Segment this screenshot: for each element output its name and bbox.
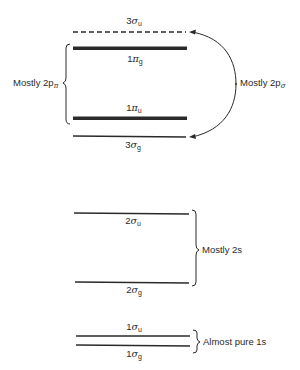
label-3sigma-g: 3σg [113, 140, 153, 150]
label-1sigma-g: 1σg [114, 349, 154, 359]
brace-mostly-2p-pi [63, 44, 70, 124]
level-sub: g [138, 289, 142, 296]
label-1sigma-u: 1σu [114, 322, 154, 332]
brace-mostly-2s [192, 210, 199, 286]
group-sub: π [54, 82, 59, 90]
level-1pi-u [73, 117, 187, 121]
brace-almost-pure-1s [193, 330, 200, 353]
level-2sigma-g [75, 282, 189, 283]
label-1pi-u: 1πu [114, 103, 154, 113]
label-2sigma-g: 2σg [114, 285, 154, 295]
label-3sigma-u: 3σu [114, 16, 154, 26]
label-1pi-g: 1πg [115, 54, 155, 64]
level-sub: g [138, 353, 142, 360]
level-sub: u [138, 326, 142, 333]
level-sub: g [139, 58, 143, 65]
level-sub: u [138, 107, 142, 114]
group-text: Mostly 2p [240, 77, 281, 88]
group-label-mostly-2p-sigma: Mostly 2pσ [240, 78, 285, 88]
level-1sigma-g [76, 345, 190, 346]
group-text: Mostly 2p [13, 77, 54, 88]
arrowhead-bottom-icon [189, 134, 196, 139]
arrowhead-top-icon [189, 30, 196, 35]
group-label-mostly-2s: Mostly 2s [202, 245, 242, 255]
group-label-almost-pure-1s: Almost pure 1s [203, 337, 266, 347]
level-3sigma-g [73, 136, 186, 137]
level-sub: u [137, 220, 141, 227]
label-2sigma-u: 2σu [113, 216, 153, 226]
arc-mostly-2p-sigma [192, 32, 236, 137]
level-1pi-g [73, 47, 187, 51]
group-sub: σ [281, 82, 286, 90]
level-sub: u [138, 20, 142, 27]
group-label-mostly-2p-pi: Mostly 2pπ [13, 78, 58, 88]
level-sub: g [137, 144, 141, 151]
level-2sigma-u [74, 213, 189, 214]
